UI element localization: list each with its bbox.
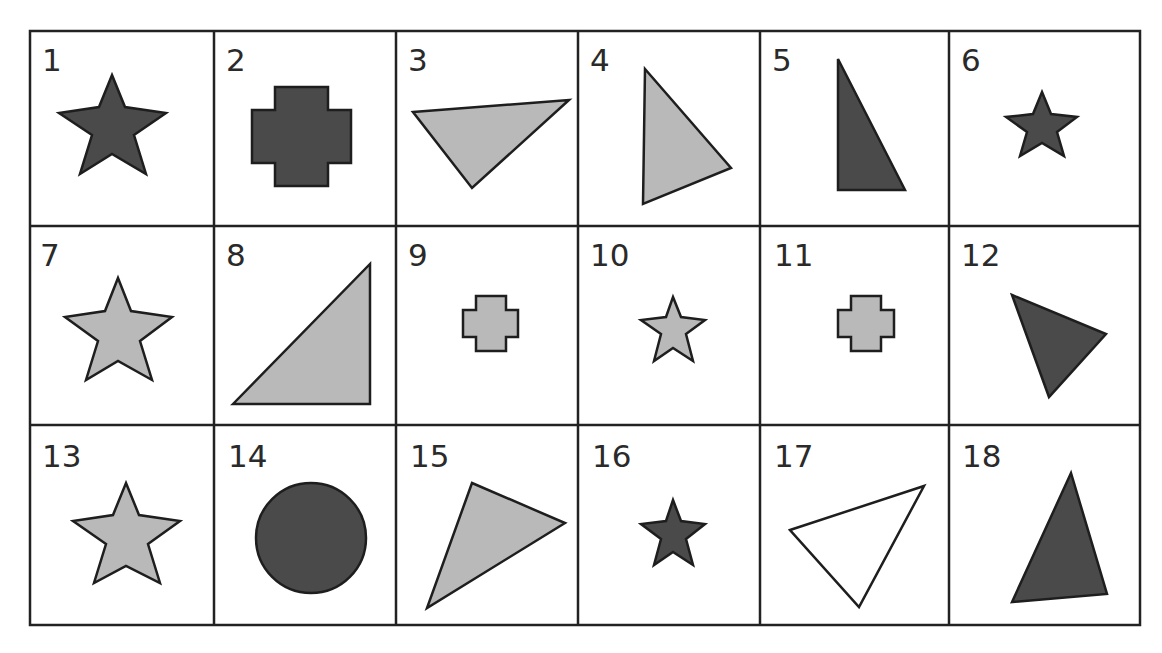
cell-2[interactable]: 2 bbox=[226, 42, 351, 186]
cell-number: 14 bbox=[228, 438, 267, 474]
cell-11[interactable]: 11 bbox=[774, 237, 894, 351]
cell-number: 9 bbox=[408, 237, 428, 273]
cell-number: 7 bbox=[40, 237, 60, 273]
grid-border bbox=[30, 31, 1140, 625]
cell-number: 17 bbox=[774, 438, 813, 474]
cell-number: 8 bbox=[226, 237, 246, 273]
cell-4[interactable]: 4 bbox=[590, 42, 731, 204]
cell-number: 10 bbox=[590, 237, 629, 273]
cell-18[interactable]: 18 bbox=[962, 438, 1107, 602]
triangle-shape bbox=[427, 483, 565, 608]
cell-number: 3 bbox=[408, 42, 428, 78]
triangle-shape bbox=[643, 69, 731, 204]
cell-14[interactable]: 14 bbox=[228, 438, 366, 593]
triangle-shape bbox=[1012, 295, 1106, 397]
cross-shape bbox=[252, 87, 351, 186]
cell-1[interactable]: 1 bbox=[42, 42, 166, 174]
triangle-shape bbox=[1012, 473, 1107, 602]
cell-number: 12 bbox=[961, 237, 1000, 273]
cell-10[interactable]: 10 bbox=[590, 237, 705, 361]
star-shape bbox=[65, 278, 172, 380]
cell-number: 2 bbox=[226, 42, 246, 78]
cell-number: 5 bbox=[772, 42, 792, 78]
shape-sorting-worksheet: 1 2 3 4 5 6 7 8 9 10 11 bbox=[0, 0, 1162, 653]
cell-number: 13 bbox=[42, 438, 81, 474]
star-shape bbox=[1006, 92, 1077, 156]
cell-3[interactable]: 3 bbox=[408, 42, 569, 188]
cell-5[interactable]: 5 bbox=[772, 42, 905, 190]
cell-number: 11 bbox=[774, 237, 813, 273]
cell-number: 1 bbox=[42, 42, 62, 78]
cell-number: 6 bbox=[961, 42, 981, 78]
cell-12[interactable]: 12 bbox=[961, 237, 1106, 397]
cell-8[interactable]: 8 bbox=[226, 237, 370, 404]
cell-number: 15 bbox=[410, 438, 449, 474]
grid bbox=[30, 31, 1140, 625]
cross-shape bbox=[463, 296, 518, 351]
triangle-shape bbox=[838, 59, 905, 190]
triangle-shape bbox=[413, 100, 569, 188]
cell-6[interactable]: 6 bbox=[961, 42, 1077, 156]
cell-15[interactable]: 15 bbox=[410, 438, 565, 608]
cell-17[interactable]: 17 bbox=[774, 438, 924, 607]
star-shape bbox=[641, 297, 705, 361]
cell-16[interactable]: 16 bbox=[592, 438, 705, 565]
star-shape bbox=[641, 500, 705, 565]
cell-number: 4 bbox=[590, 42, 610, 78]
cell-number: 18 bbox=[962, 438, 1001, 474]
triangle-shape bbox=[233, 264, 370, 404]
cell-13[interactable]: 13 bbox=[42, 438, 180, 583]
star-shape bbox=[59, 75, 166, 174]
cross-shape bbox=[838, 296, 894, 351]
cell-number: 16 bbox=[592, 438, 631, 474]
cell-9[interactable]: 9 bbox=[408, 237, 518, 351]
circle-shape bbox=[256, 483, 366, 593]
triangle-shape bbox=[790, 486, 924, 607]
star-shape bbox=[73, 483, 180, 583]
cell-7[interactable]: 7 bbox=[40, 237, 172, 380]
